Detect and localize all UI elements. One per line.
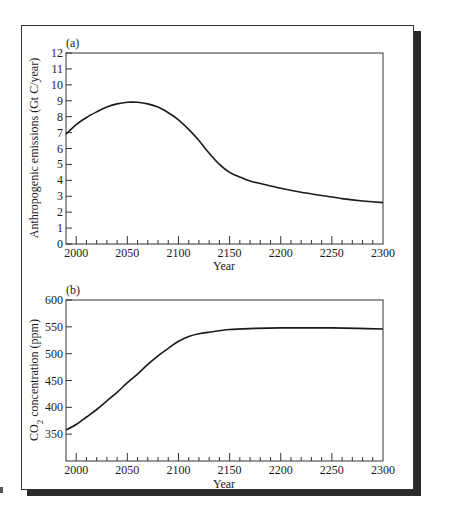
y-tick-label: 500: [45, 347, 63, 361]
y-axis-title-a: Anthropogenic emissions (Gt C/year): [27, 58, 41, 238]
y-tick-label: 550: [45, 320, 63, 334]
x-tick-label: 2250: [320, 246, 344, 260]
panel-label-b: (b): [66, 283, 80, 297]
y-tick-label: 8: [57, 110, 63, 124]
x-tick-label: 2300: [371, 246, 395, 260]
y-tick-label: 11: [51, 62, 63, 76]
chart-a: (a) 0123456789101112 2000205021002150220…: [27, 36, 395, 273]
y-tick-label: 5: [57, 157, 63, 171]
x-tick-label: 2150: [218, 463, 242, 477]
x-tick-label: 2000: [64, 246, 88, 260]
y-tick-label: 1: [57, 221, 63, 235]
x-tick-label: 2300: [371, 463, 395, 477]
plot-area-b: [66, 300, 383, 461]
panel-label-a: (a): [66, 36, 79, 50]
x-tick-label: 2150: [218, 246, 242, 260]
chart-b: (b) 350400450500550600 20002050210021502…: [27, 283, 395, 491]
x-axis-b: 2000205021002150220022502300: [64, 453, 395, 477]
y-axis-b: 350400450500550600: [45, 293, 72, 441]
y-axis-title-b-rest: concentration (ppm): [27, 319, 41, 420]
y-tick-label: 12: [51, 46, 63, 60]
y-tick-label: 4: [57, 173, 63, 187]
x-tick-label: 2250: [320, 463, 344, 477]
x-axis-title-a: Year: [213, 259, 235, 273]
y-tick-label: 0: [57, 237, 63, 251]
y-axis-title-b-co: CO: [27, 424, 41, 441]
y-tick-label: 3: [57, 189, 63, 203]
x-tick-label: 2200: [269, 463, 293, 477]
co2-concentration-line: [66, 328, 383, 430]
y-tick-label: 6: [57, 142, 63, 156]
x-axis-title-b: Year: [213, 477, 235, 491]
y-axis-title-b: CO2 concentration (ppm): [27, 319, 45, 441]
figure-svg: (a) 0123456789101112 2000205021002150220…: [0, 0, 453, 519]
y-tick-label: 9: [57, 94, 63, 108]
y-tick-label: 600: [45, 293, 63, 307]
y-tick-label: 7: [57, 126, 63, 140]
x-tick-label: 2100: [166, 246, 190, 260]
x-tick-label: 2050: [115, 463, 139, 477]
x-tick-label: 2050: [115, 246, 139, 260]
x-tick-label: 2100: [166, 463, 190, 477]
y-tick-label: 10: [51, 78, 63, 92]
y-tick-label: 2: [57, 205, 63, 219]
y-tick-label: 400: [45, 400, 63, 414]
plot-area-a: [66, 53, 383, 244]
x-axis-a: 2000205021002150220022502300: [64, 236, 395, 260]
y-tick-label: 450: [45, 374, 63, 388]
x-tick-label: 2200: [269, 246, 293, 260]
y-tick-label: 350: [45, 427, 63, 441]
emissions-line: [66, 102, 383, 202]
x-tick-label: 2000: [64, 463, 88, 477]
y-axis-a: 0123456789101112: [51, 46, 72, 251]
